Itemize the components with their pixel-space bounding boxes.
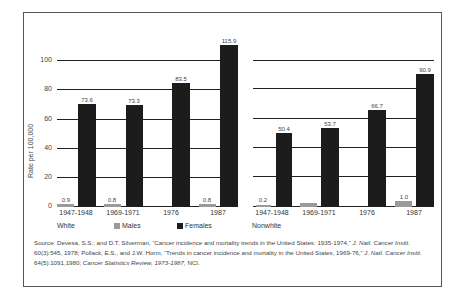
y-tick: 100	[38, 56, 52, 63]
bar-nonwhite-females-1987	[416, 74, 434, 207]
category-label: 1947-1948	[250, 209, 294, 216]
bar-nonwhite-females-1947	[276, 133, 292, 207]
value-label: 73.6	[75, 97, 99, 103]
value-label: 0.8	[195, 197, 219, 203]
value-label: 53.7	[318, 121, 342, 127]
category-label: 1969-1971	[101, 209, 145, 216]
legend-label: Males	[122, 222, 141, 229]
y-tick: 60	[38, 115, 52, 122]
gridline	[57, 60, 237, 61]
value-label: 1.0	[392, 194, 416, 200]
category-label: 1976	[345, 209, 389, 216]
bar-white-males-1947	[57, 204, 74, 207]
legend-label: Females	[185, 222, 212, 229]
value-label: 50.4	[272, 126, 296, 132]
bar-white-females-1987	[220, 45, 238, 207]
bar-white-females-1976	[172, 83, 190, 207]
category-label: 1987	[392, 209, 436, 216]
gridline	[253, 60, 434, 61]
y-tick: 0	[38, 202, 52, 209]
value-label: 73.3	[122, 98, 146, 104]
bar-nonwhite-females-1976	[368, 110, 386, 207]
source-text: 60(3):545, 1978; Pollack, E.S., and J.W.…	[34, 249, 364, 256]
bar-nonwhite-males-1987	[395, 201, 412, 207]
gridline	[253, 118, 434, 119]
category-label: 1969-1971	[297, 209, 341, 216]
panel-label-white: White	[57, 222, 75, 229]
y-tick: 40	[38, 144, 52, 151]
gridline	[57, 89, 237, 90]
source-note: Source: Devesa, S.S., and D.T. Silverman…	[34, 238, 434, 268]
legend-item-females: Females	[177, 222, 212, 229]
value-label: 0.2	[251, 197, 275, 203]
value-label: 115.9	[217, 38, 241, 44]
value-label: 66.7	[365, 103, 389, 109]
panel-label-nonwhite: Nonwhite	[252, 222, 281, 229]
source-text: 64(5):1091,1980;	[34, 259, 83, 266]
gridline	[253, 88, 434, 89]
bar-nonwhite-males-1969	[300, 203, 317, 207]
value-label: 0.9	[54, 197, 78, 203]
journal-title: J. Natl. Cancer Instit.	[364, 249, 421, 256]
source-text: NCI.	[186, 259, 200, 266]
category-label: 1987	[196, 209, 240, 216]
bar-white-females-1947	[78, 104, 96, 207]
y-axis-label: Rate per 100,000	[27, 124, 34, 178]
bar-nonwhite-males-1947	[256, 205, 271, 207]
category-label: 1947-1948	[54, 209, 98, 216]
publication-title: Cancer Statistics Review, 1973-1987,	[83, 259, 186, 266]
y-tick: 20	[38, 173, 52, 180]
bar-white-females-1969	[126, 105, 143, 207]
value-label: 83.5	[169, 76, 193, 82]
bar-white-males-1969	[104, 204, 121, 207]
bar-nonwhite-females-1969	[321, 128, 339, 207]
journal-title: J. Natl. Cancer Instit.	[352, 239, 409, 246]
source-text: Source: Devesa, S.S., and D.T. Silverman…	[34, 239, 352, 246]
category-label: 1976	[149, 209, 193, 216]
bar-white-males-1987	[199, 204, 216, 207]
females-swatch-icon	[177, 223, 183, 229]
y-tick: 80	[38, 85, 52, 92]
legend-item-males: Males	[114, 222, 141, 229]
value-label: 0.8	[100, 197, 124, 203]
value-label: 90.9	[413, 67, 437, 73]
males-swatch-icon	[114, 223, 120, 229]
